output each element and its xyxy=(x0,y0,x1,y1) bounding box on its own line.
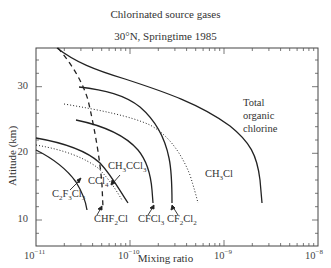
label-c2f3cl3: C2F3Cl3 xyxy=(52,188,85,202)
label-ch3cl: CH3Cl xyxy=(205,168,233,182)
label-ch3ccl3: CH3CCl3 xyxy=(108,160,147,174)
label-total-line3: chlorine xyxy=(243,122,277,135)
label-ccl4: CCl4 xyxy=(88,175,108,189)
arrow-head-icon xyxy=(98,206,102,210)
plot-area xyxy=(0,0,331,268)
curves xyxy=(36,48,262,210)
label-cfcl3: CFCl3 xyxy=(138,213,164,227)
x-axis-label: Mixing ratio xyxy=(0,252,331,264)
y-tick-30: 30 xyxy=(12,80,28,91)
label-cf2cl2: CF2Cl2 xyxy=(167,213,197,227)
arrow-head-icon xyxy=(150,205,154,209)
label-total-line1: Total xyxy=(243,96,277,109)
y-tick-10: 10 xyxy=(12,213,28,224)
label-total-organic-chlorine: Total organic chlorine xyxy=(243,96,277,135)
label-total-line2: organic xyxy=(243,109,277,122)
label-chf2cl: CHF2Cl xyxy=(94,213,128,227)
y-axis-label: Altitude (km) xyxy=(6,126,18,186)
